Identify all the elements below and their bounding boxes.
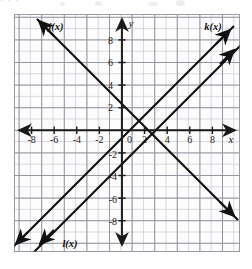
x-tick-4: 4 [165, 134, 170, 145]
screenshot-root: · · · [0, 0, 252, 269]
artifact-dot-3 [148, 2, 158, 6]
y-tick-2: 2 [108, 102, 113, 113]
x-tick--6: -6 [50, 134, 58, 145]
y-axis-label: y [128, 17, 134, 29]
artifact-dot-2 [95, 1, 102, 6]
y-tick--2: -2 [109, 149, 117, 160]
y-tick-6: 6 [108, 57, 113, 68]
label-k-of-x: k(x) [204, 21, 222, 33]
top-cropped-text-value: · · · [0, 0, 19, 5]
coordinate-graph: -8 -6 -4 -2 2 4 6 8 8 6 4 2 -2 -4 -6 -8 … [14, 14, 240, 252]
artifact-dot-1 [60, 2, 65, 6]
x-tick--2: -2 [95, 134, 103, 145]
label-j-of-x: j(x) [46, 21, 63, 33]
graph-svg: -8 -6 -4 -2 2 4 6 8 8 6 4 2 -2 -4 -6 -8 … [14, 14, 240, 252]
y-tick-8: 8 [108, 35, 113, 46]
x-tick--4: -4 [73, 134, 81, 145]
x-tick-8: 8 [210, 134, 215, 145]
top-cropped-text: · · · [0, 0, 252, 12]
artifact-dot-4 [176, 0, 185, 6]
x-tick-6: 6 [187, 134, 192, 145]
label-l-of-x: l(x) [62, 238, 77, 250]
x-axis-label: x [228, 133, 234, 145]
x-tick--8: -8 [27, 134, 35, 145]
y-tick--6: -6 [109, 194, 117, 205]
x-tick-2: 2 [142, 134, 147, 145]
y-tick--4: -4 [109, 171, 117, 182]
y-tick-4: 4 [108, 80, 113, 91]
y-tick--8: -8 [109, 216, 117, 227]
origin-label: 0 [127, 134, 132, 145]
